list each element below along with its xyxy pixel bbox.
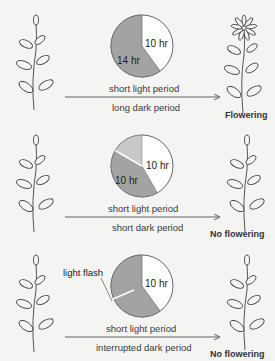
- pie-dark-label: 14 hr: [117, 55, 140, 66]
- pie-dark-label: 10 hr: [115, 175, 138, 186]
- dark-period-label: long dark period: [112, 102, 180, 113]
- result-label: Flowering: [225, 110, 268, 120]
- pie-light-label: 10 hr: [145, 38, 168, 49]
- light-flash-label: light flash: [63, 267, 103, 278]
- panel-interrupted-dark: light flash 10 hr short light period int…: [0, 240, 275, 360]
- dark-period-label: short dark period: [112, 222, 183, 233]
- pie-light-label: 10 hr: [145, 278, 168, 289]
- plant-flower-icon: [223, 15, 263, 113]
- pie-light-label: 10 hr: [146, 160, 169, 171]
- panel-long-dark: 10 hr 14 hr short light period long dark…: [0, 0, 275, 120]
- flash-leader-line: [101, 278, 112, 301]
- plant-bud-icon: [226, 255, 266, 350]
- plant-bud-icon: [226, 135, 266, 232]
- light-period-label: short light period: [106, 323, 176, 334]
- light-period-label: short light period: [109, 83, 179, 94]
- light-period-label: short light period: [108, 203, 178, 214]
- panel-short-dark: 10 hr 10 hr short light period short dar…: [0, 120, 275, 240]
- plant-bud-icon: [15, 15, 55, 110]
- result-label: No flowering: [210, 229, 265, 239]
- plant-bud-icon: [15, 135, 55, 232]
- dark-period-label: interrupted dark period: [96, 342, 192, 353]
- result-label: No flowering: [210, 349, 265, 359]
- plant-bud-icon: [15, 255, 55, 352]
